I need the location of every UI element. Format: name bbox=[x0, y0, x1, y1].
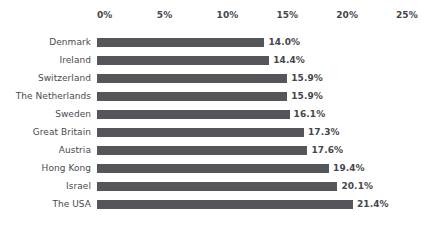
chart-row: The Netherlands15.9% bbox=[0, 88, 426, 106]
chart-row: Israel20.1% bbox=[0, 178, 426, 196]
chart-row: The USA21.4% bbox=[0, 196, 426, 214]
bar-value-label: 15.9% bbox=[291, 91, 323, 101]
chart-rows: Denmark14.0%Ireland14.4%Switzerland15.9%… bbox=[0, 0, 426, 226]
bar-value-label: 15.9% bbox=[291, 73, 323, 83]
bar bbox=[97, 164, 329, 173]
category-label: Sweden bbox=[55, 109, 91, 119]
category-label: Hong Kong bbox=[42, 163, 91, 173]
category-label: Switzerland bbox=[38, 73, 91, 83]
bar-chart: 0%5%10%15%20%25% Denmark14.0%Ireland14.4… bbox=[0, 0, 426, 226]
category-label: Denmark bbox=[49, 37, 91, 47]
bar-value-label: 14.4% bbox=[273, 55, 305, 65]
category-label: Austria bbox=[59, 145, 91, 155]
bar-value-label: 17.6% bbox=[311, 145, 343, 155]
bar-value-label: 21.4% bbox=[357, 199, 389, 209]
bar bbox=[97, 200, 353, 209]
bar bbox=[97, 128, 304, 137]
bar bbox=[97, 56, 269, 65]
bar bbox=[97, 92, 287, 101]
chart-row: Austria17.6% bbox=[0, 142, 426, 160]
bar-value-label: 14.0% bbox=[268, 37, 300, 47]
bar-value-label: 19.4% bbox=[333, 163, 365, 173]
category-label: Israel bbox=[66, 181, 91, 191]
bar bbox=[97, 74, 287, 83]
category-label: The Netherlands bbox=[16, 91, 91, 101]
chart-row: Switzerland15.9% bbox=[0, 70, 426, 88]
category-label: Ireland bbox=[60, 55, 91, 65]
chart-row: Sweden16.1% bbox=[0, 106, 426, 124]
bar-value-label: 16.1% bbox=[294, 109, 326, 119]
chart-row: Great Britain17.3% bbox=[0, 124, 426, 142]
category-label: The USA bbox=[52, 199, 91, 209]
chart-row: Ireland14.4% bbox=[0, 52, 426, 70]
chart-row: Denmark14.0% bbox=[0, 34, 426, 52]
bar bbox=[97, 182, 337, 191]
bar-value-label: 17.3% bbox=[308, 127, 340, 137]
category-label: Great Britain bbox=[33, 127, 91, 137]
bar bbox=[97, 38, 264, 47]
bar bbox=[97, 146, 307, 155]
chart-row: Hong Kong19.4% bbox=[0, 160, 426, 178]
bar-value-label: 20.1% bbox=[341, 181, 373, 191]
bar bbox=[97, 110, 290, 119]
